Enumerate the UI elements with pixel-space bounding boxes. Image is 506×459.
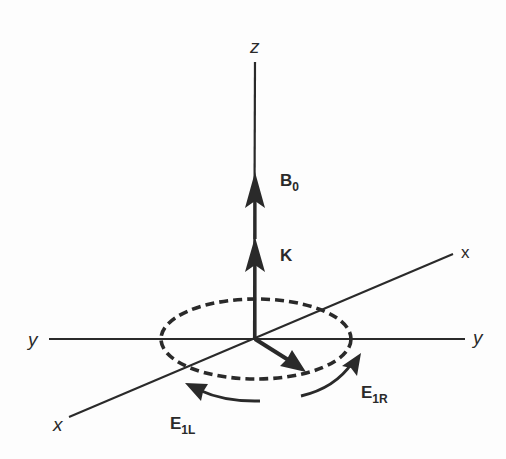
x-axis-label-front: x	[52, 414, 64, 435]
y-axis-label-left: y	[26, 329, 39, 350]
e1r-rotation-arrow	[301, 363, 352, 396]
e1r-label: E1R	[361, 383, 388, 406]
y-axis-label-right: y	[471, 327, 484, 348]
z-axis-label: z	[249, 36, 260, 57]
e1l-rotation-arrow	[199, 390, 260, 401]
polarization-diagram: z y y x x B0 K E1R E1L	[0, 0, 506, 459]
e-field-vector	[255, 339, 290, 361]
x-axis	[69, 254, 453, 417]
e-field-arrow-icon	[280, 350, 306, 372]
b0-label: B0	[280, 171, 299, 194]
e1l-label: E1L	[170, 414, 195, 437]
x-axis-label-back: x	[461, 243, 470, 262]
k-label: K	[280, 246, 293, 265]
